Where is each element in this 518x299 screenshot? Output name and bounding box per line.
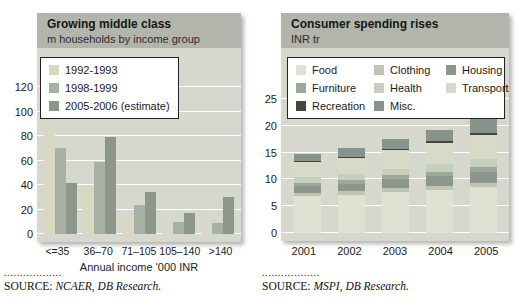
stacked-bar (294, 154, 321, 233)
legend-item: Transport (446, 82, 509, 94)
bar-segment (382, 150, 409, 169)
x-axis-labels: <=3536–7071–105105–140>140 (37, 245, 241, 257)
plot-area: FoodClothingHousingFurnitureHealthTransp… (281, 48, 509, 233)
legend-label: Clothing (390, 64, 430, 76)
bar (173, 222, 184, 234)
x-tick-label: 105–140 (159, 245, 200, 257)
bar-segment (338, 184, 365, 192)
legend-label: 1998-1999 (65, 82, 118, 94)
legend: 1992-19931998-19992005-2006 (estimate) (40, 57, 179, 119)
y-tick-label: 60 (0, 154, 33, 168)
legend-swatch (49, 83, 59, 93)
legend-label: Housing (462, 64, 502, 76)
stacked-bar (426, 130, 453, 233)
legend-item: Health (374, 82, 446, 94)
bar (145, 192, 156, 234)
chart-title: Consumer spending rises (291, 17, 509, 32)
x-tick-label: 71–105 (119, 245, 160, 257)
consumer-spending-chart-panel: Consumer spending rises INR tr FoodCloth… (281, 13, 509, 241)
legend-item: 1998-1999 (49, 82, 170, 94)
legend-label: Transport (462, 82, 509, 94)
bar-segment (470, 119, 497, 132)
bar (66, 183, 77, 234)
bar-segment (426, 164, 453, 171)
legend-swatch (374, 65, 384, 75)
legend: FoodClothingHousingFurnitureHealthTransp… (287, 57, 505, 119)
y-tick-label: 20 (252, 119, 277, 133)
stacked-bar (382, 139, 409, 233)
y-tick-label: 20 (0, 203, 33, 217)
bar-segment (426, 143, 453, 164)
legend-item: Housing (446, 64, 509, 76)
y-tick-label: 80 (0, 129, 33, 143)
bar-segment (338, 148, 365, 156)
bar-segment (294, 154, 321, 161)
bar-segment (382, 139, 409, 149)
x-tick-label: 2004 (418, 245, 464, 257)
bar (201, 232, 212, 234)
chart-title: Growing middle class (47, 17, 241, 32)
bar-segment (338, 195, 365, 233)
bar (55, 148, 66, 234)
chart-header: Growing middle class m households by inc… (37, 13, 241, 48)
dual-chart-figure: Growing middle class m households by inc… (0, 0, 518, 299)
bar-segment (382, 192, 409, 233)
chart-header: Consumer spending rises INR tr (281, 13, 509, 48)
y-axis: 0510152025 (252, 48, 277, 233)
y-tick-label: 40 (0, 178, 33, 192)
x-tick-label: 2001 (281, 245, 327, 257)
legend-label: Health (390, 82, 422, 94)
chart-subtitle: INR tr (291, 32, 509, 46)
bar-segment (426, 130, 453, 141)
bar-segment (382, 179, 409, 188)
bar (223, 197, 234, 234)
dotted-rule: .................. (262, 271, 409, 277)
legend-swatch (49, 65, 59, 75)
y-tick-label: 5 (252, 199, 277, 213)
legend-label: 1992-1993 (65, 64, 118, 76)
middle-class-chart-panel: Growing middle class m households by inc… (37, 13, 241, 242)
bar-segment (294, 186, 321, 193)
bar (105, 137, 116, 234)
legend-item: Clothing (374, 64, 446, 76)
legend-item: Furniture (296, 82, 374, 94)
y-tick-label: 0 (252, 226, 277, 240)
bar (83, 186, 94, 234)
legend-swatch (296, 101, 306, 111)
source-body: NCAER, DB Research. (55, 280, 161, 292)
legend-label: Furniture (312, 82, 356, 94)
bar-segment (426, 176, 453, 186)
bar-segment (294, 162, 321, 178)
source-prefix: SOURCE: (4, 280, 55, 292)
legend-item: 2005-2006 (estimate) (49, 100, 170, 112)
legend-swatch (296, 65, 306, 75)
legend-swatch (446, 83, 456, 93)
x-tick-label: 2005 (463, 245, 509, 257)
bar-segment (470, 159, 497, 167)
bar (212, 223, 223, 234)
legend-swatch (374, 83, 384, 93)
y-tick-label: 0 (0, 227, 33, 241)
bar-segment (294, 196, 321, 233)
bar-segment (470, 187, 497, 233)
source-body: MSPI, DB Research. (313, 280, 408, 292)
bar (184, 213, 195, 234)
bar (162, 229, 173, 234)
x-tick-label: <=35 (37, 245, 78, 257)
source-text: SOURCE: MSPI, DB Research. (262, 280, 409, 292)
legend-label: Recreation (312, 100, 365, 112)
y-tick-label: 25 (252, 92, 277, 106)
bar (123, 216, 134, 234)
plot-area: 1992-19931998-19992005-2006 (estimate) (37, 48, 241, 234)
legend-swatch (49, 101, 59, 111)
source-note: .................. SOURCE: MSPI, DB Rese… (262, 271, 409, 292)
legend-swatch (296, 83, 306, 93)
legend-item: Recreation (296, 100, 374, 112)
stacked-bar (338, 148, 365, 233)
y-tick-label: 10 (252, 172, 277, 186)
legend-item: Food (296, 64, 374, 76)
source-text: SOURCE: NCAER, DB Research. (4, 280, 161, 292)
legend-item: 1992-1993 (49, 64, 170, 76)
x-axis-labels: 20012002200320042005 (281, 245, 509, 257)
y-tick-label: 100 (0, 105, 33, 119)
